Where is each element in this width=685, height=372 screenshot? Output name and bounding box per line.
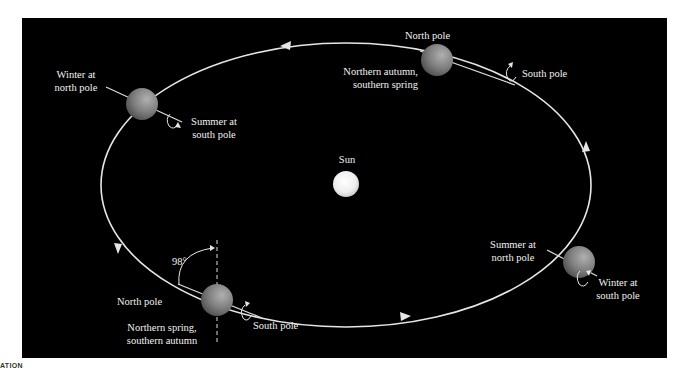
- tilt-angle-label: 98°: [172, 256, 187, 269]
- planet-top-left: [106, 87, 182, 128]
- rotation-arrow-icon: [506, 66, 516, 81]
- south-pole-label-bottom-left: South pole: [253, 320, 298, 333]
- sun-icon: [333, 171, 359, 197]
- footer-text: ATION: [0, 362, 23, 369]
- sun-label: Sun: [333, 154, 361, 167]
- season-label-right: Summer at north pole: [483, 239, 543, 264]
- north-pole-label-top-right: North pole: [405, 30, 450, 43]
- south-pole-label-top-right: South pole: [522, 68, 567, 81]
- season-label-bottom-left: Northern spring, southern autumn: [112, 322, 212, 347]
- pole-label-right: Winter at south pole: [590, 277, 646, 302]
- north-pole-label-bottom-left: North pole: [117, 296, 162, 309]
- orbit-diagram: [0, 0, 685, 372]
- season-label-top-left: Winter at north pole: [48, 69, 104, 94]
- season-label-top-right: Northern autumn, southern spring: [308, 66, 418, 91]
- planet-top-right: [420, 44, 516, 85]
- pole-label-top-left: Summer at south pole: [186, 116, 242, 141]
